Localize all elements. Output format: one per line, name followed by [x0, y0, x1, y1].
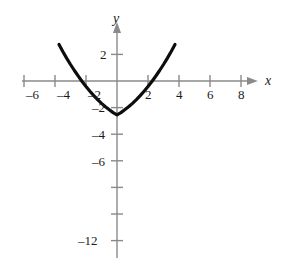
coordinate-plane-svg	[0, 0, 286, 268]
y-axis-name: y	[113, 12, 119, 26]
x-tick-label-neg6: –6	[26, 88, 39, 101]
y-tick-label-2: 2	[100, 48, 107, 61]
x-tick-label-4: 4	[176, 88, 183, 101]
x-tick-label-6: 6	[207, 88, 214, 101]
y-tick-label-neg4: –4	[92, 128, 105, 141]
y-tick-label-neg12: –12	[78, 234, 98, 247]
y-tick-label-neg6: –6	[92, 155, 105, 168]
y-tick-label-neg2: –2	[92, 101, 105, 114]
graph-figure: –6 –4 –2 2 4 6 8 2 –2 –4 –6 –12 x y	[0, 0, 286, 268]
x-tick-label-neg4: –4	[57, 88, 70, 101]
x-tick-label-8: 8	[238, 88, 245, 101]
x-axis-name: x	[265, 74, 271, 88]
x-tick-label-2: 2	[145, 88, 152, 101]
